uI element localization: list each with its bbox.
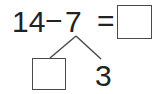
bond-part-left-box[interactable] bbox=[32, 58, 66, 90]
minus-operator: − bbox=[45, 6, 63, 36]
subtrahend-number: 7 bbox=[65, 7, 82, 37]
bond-part-right-number: 3 bbox=[95, 61, 112, 91]
answer-box[interactable] bbox=[117, 5, 152, 39]
minuend-number: 14 bbox=[12, 7, 45, 37]
bond-line-left bbox=[50, 36, 76, 58]
bond-line-right bbox=[76, 36, 101, 59]
equals-sign: = bbox=[97, 6, 115, 36]
